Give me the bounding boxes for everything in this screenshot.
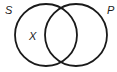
mark-x: X xyxy=(28,30,37,42)
circle-s xyxy=(15,4,77,66)
venn-diagram: S P X xyxy=(0,0,117,72)
circle-p xyxy=(45,4,107,66)
label-p: P xyxy=(107,4,115,16)
label-s: S xyxy=(5,4,13,16)
